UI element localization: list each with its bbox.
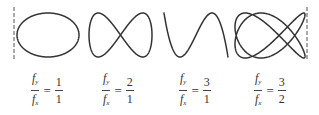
lissajous-curve-3-2 — [235, 13, 305, 58]
equals-sign: = — [191, 83, 198, 99]
ratio-numerator: 3 — [278, 76, 286, 91]
subscript-y: y — [106, 78, 109, 86]
lissajous-curve-3-1 — [164, 13, 228, 57]
ratio-denominator: 1 — [204, 91, 210, 106]
frequency-ratio-formula-1-1: fy fx = 1 1 — [31, 74, 63, 108]
lissajous-curve-1-1 — [17, 13, 79, 57]
equals-sign: = — [114, 83, 121, 99]
fy-over-fx: fy fx — [254, 72, 262, 110]
subscript-x: x — [258, 99, 261, 107]
ratio-value: 3 1 — [203, 76, 211, 106]
ratio-denominator: 2 — [279, 91, 285, 106]
ratio-denominator: 1 — [56, 91, 62, 106]
ratio-numerator: 3 — [203, 76, 211, 91]
fy-over-fx: fy fx — [179, 72, 187, 110]
fy-over-fx: fy fx — [31, 72, 39, 110]
subscript-x: x — [35, 99, 38, 107]
fy-over-fx: fy fx — [102, 72, 110, 110]
frequency-ratio-formula-3-1: fy fx = 3 1 — [179, 74, 211, 108]
subscript-x: x — [183, 99, 186, 107]
subscript-y: y — [258, 78, 261, 86]
ratio-value: 2 1 — [126, 76, 134, 106]
subscript-x: x — [106, 99, 109, 107]
subscript-y: y — [35, 78, 38, 86]
ratio-numerator: 1 — [55, 76, 63, 91]
ratio-denominator: 1 — [127, 91, 133, 106]
lissajous-curve-2-1 — [89, 13, 152, 57]
frequency-ratio-formula-2-1: fy fx = 2 1 — [102, 74, 134, 108]
equals-sign: = — [266, 83, 273, 99]
frequency-ratio-formula-3-2: fy fx = 3 2 — [254, 74, 286, 108]
ratio-numerator: 2 — [126, 76, 134, 91]
equals-sign: = — [43, 83, 50, 99]
ratio-value: 3 2 — [278, 76, 286, 106]
ratio-value: 1 1 — [55, 76, 63, 106]
subscript-y: y — [183, 78, 186, 86]
